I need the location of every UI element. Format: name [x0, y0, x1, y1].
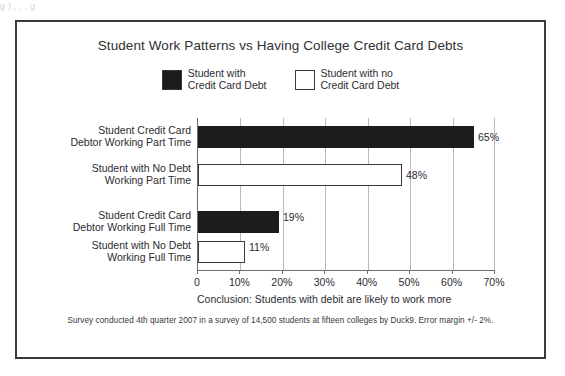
- bar-value-0: 65%: [478, 131, 499, 143]
- bar-0[interactable]: [198, 126, 474, 148]
- x-tick-label-10: 10%: [229, 276, 250, 288]
- category-label-0: Student Credit Card Debtor Working Part …: [17, 124, 191, 148]
- x-axis-line: [197, 270, 494, 271]
- category-axis-labels: Student Credit Card Debtor Working Part …: [17, 118, 195, 270]
- x-tick-label-60: 60%: [441, 276, 462, 288]
- x-tick-label-20: 20%: [271, 276, 292, 288]
- bar-value-1: 48%: [406, 169, 427, 181]
- x-tick-10: [239, 270, 240, 274]
- legend-label-no-credit-card-debt: Student with no Credit Card Debt: [321, 68, 400, 91]
- x-tick-50: [409, 270, 410, 274]
- x-tick-30: [324, 270, 325, 274]
- bar-value-2: 19%: [283, 211, 304, 223]
- bar-value-3: 11%: [249, 241, 269, 253]
- bars-container: 65% 48% 19% 11%: [197, 118, 494, 270]
- x-tick-40: [367, 270, 368, 274]
- survey-footnote: Survey conducted 4th quarter 2007 in a s…: [17, 316, 544, 325]
- x-tick-label-0: 0: [194, 276, 200, 288]
- x-tick-70: [494, 270, 495, 274]
- bar-2[interactable]: [198, 211, 279, 233]
- chart-legend: Student with Credit Card Debt Student wi…: [17, 68, 544, 91]
- legend-swatch-empty-icon: [295, 70, 315, 90]
- chart-title: Student Work Patterns vs Having College …: [17, 38, 544, 53]
- x-tick-label-40: 40%: [356, 276, 377, 288]
- x-tick-20: [282, 270, 283, 274]
- bar-1[interactable]: [198, 164, 402, 186]
- legend-item-credit-card-debt: Student with Credit Card Debt: [162, 68, 267, 91]
- clipped-top-text-content: g ) , , , g: [0, 0, 35, 13]
- category-label-3: Student with No Debt Working Full Time: [17, 239, 191, 263]
- x-tick-0: [197, 270, 198, 274]
- chart-frame: Student Work Patterns vs Having College …: [15, 20, 546, 359]
- x-tick-label-70: 70%: [483, 276, 504, 288]
- category-label-1: Student with No Debt Working Part Time: [17, 162, 191, 186]
- legend-label-credit-card-debt: Student with Credit Card Debt: [188, 68, 267, 91]
- x-tick-60: [452, 270, 453, 274]
- legend-swatch-filled-icon: [162, 70, 182, 90]
- x-tick-label-50: 50%: [399, 276, 420, 288]
- category-label-2: Student Credit Card Debtor Working Full …: [17, 209, 191, 233]
- conclusion-annotation: Conclusion: Students with debit are like…: [197, 293, 517, 305]
- bar-3[interactable]: [198, 241, 245, 263]
- clipped-top-text: g ) , , , g: [0, 0, 565, 13]
- plot-area: Student Credit Card Debtor Working Part …: [17, 118, 544, 293]
- x-tick-label-30: 30%: [314, 276, 335, 288]
- legend-item-no-credit-card-debt: Student with no Credit Card Debt: [295, 68, 400, 91]
